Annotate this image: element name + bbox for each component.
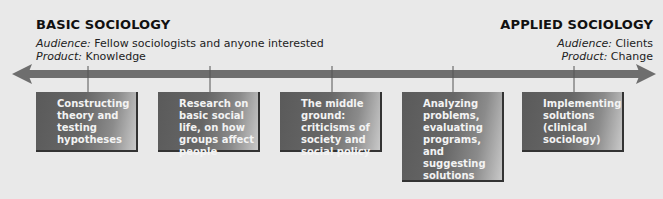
box-middle-ground: The middle ground: criticisms of society… [280, 92, 382, 152]
box-analyzing-problems: Analyzing problems, evaluating programs,… [402, 92, 504, 182]
box-basic-research: Research on basic social life, on how gr… [158, 92, 260, 152]
box-constructing-theory: Constructing theory and testing hypothes… [36, 92, 138, 152]
box-implementing-solutions: Implementing solutions (clinical sociolo… [522, 92, 624, 152]
